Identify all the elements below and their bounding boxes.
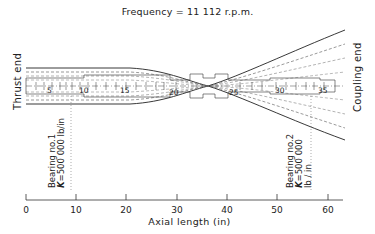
station-35: 35 [318, 86, 328, 95]
x-tick-10: 10 [70, 205, 81, 215]
x-tick-50: 50 [271, 205, 282, 215]
bearing1-stiffness: K=500 000 lb/in [57, 118, 66, 188]
thrust-end-label: Thrust end [12, 53, 23, 110]
x-tick-60: 60 [322, 205, 333, 215]
mode-shape-envelope [26, 30, 345, 140]
x-axis [26, 194, 343, 200]
x-axis-label: Axial length (in) [0, 216, 375, 227]
station-10: 10 [79, 86, 89, 95]
station-15: 15 [120, 86, 130, 95]
mode-shape-diagram: 5 10 15 20 25 30 35 [0, 0, 375, 234]
x-tick-30: 30 [171, 205, 182, 215]
bearing1-label: Bearing no.1 K=500 000 lb/in [48, 118, 66, 188]
bearing2-label: Bearing no.2 K=500 000 lb / in [286, 134, 313, 188]
station-5: 5 [47, 86, 52, 95]
station-20: 20 [169, 88, 179, 97]
bearing2-unit: lb / in [304, 134, 313, 188]
x-tick-20: 20 [120, 205, 131, 215]
x-tick-40: 40 [221, 205, 232, 215]
station-30: 30 [275, 86, 285, 95]
station-25: 25 [229, 88, 239, 97]
x-tick-0: 0 [23, 205, 29, 215]
coupling-end-label: Coupling end [352, 42, 363, 112]
